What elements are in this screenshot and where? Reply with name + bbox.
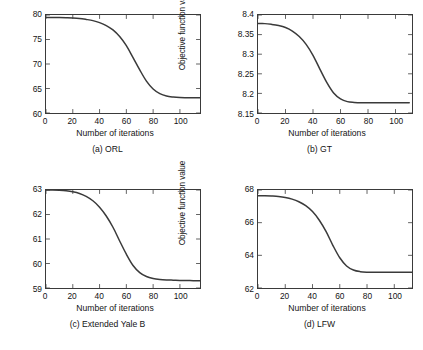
x-tick-b: 40 <box>298 116 328 126</box>
y-tick-c: 62 <box>2 210 42 219</box>
x-tick-a: 80 <box>139 116 169 126</box>
x-tick-c: 100 <box>166 291 196 301</box>
x-tick-c: 20 <box>57 291 87 301</box>
x-tick-d: 80 <box>352 291 382 301</box>
x-tick-b: 60 <box>326 116 356 126</box>
x-axis-label-a: Number of iterations <box>20 128 210 138</box>
objective-curve-d <box>258 196 412 273</box>
x-axis-label-c: Number of iterations <box>20 303 210 313</box>
y-tick-labels-d: 62646668 <box>212 189 254 289</box>
x-tick-a: 20 <box>57 116 87 126</box>
y-tick-labels-a: 6065707580 <box>0 14 42 114</box>
y-tick-b: 8.2 <box>214 90 254 99</box>
x-tick-labels-c: 020406080100 <box>45 291 201 303</box>
x-tick-d: 100 <box>380 291 410 301</box>
y-tick-c: 63 <box>2 185 42 194</box>
y-tick-b: 8.35 <box>214 30 254 39</box>
x-axis-label-b: Number of iterations <box>232 128 422 138</box>
caption-b: (b) GT <box>222 144 417 154</box>
y-tick-a: 80 <box>2 10 42 19</box>
caption-c: (c) Extended Yale B <box>10 319 205 329</box>
y-tick-a: 75 <box>2 35 42 44</box>
x-tick-b: 100 <box>381 116 411 126</box>
y-tick-labels-b: 8.158.28.258.38.358.4 <box>212 14 254 114</box>
x-tick-labels-d: 020406080100 <box>257 291 413 303</box>
y-tick-b: 8.25 <box>214 70 254 79</box>
figure-canvas: Objective function value 6065707580 0204… <box>0 0 423 350</box>
x-tick-c: 0 <box>30 291 60 301</box>
y-tick-c: 60 <box>2 260 42 269</box>
x-tick-a: 0 <box>30 116 60 126</box>
x-tick-d: 40 <box>297 291 327 301</box>
curve-svg-d <box>258 190 412 288</box>
y-tick-d: 64 <box>214 251 254 260</box>
y-tick-d: 68 <box>214 185 254 194</box>
x-tick-d: 20 <box>270 291 300 301</box>
x-axis-label-d: Number of iterations <box>232 303 422 313</box>
x-tick-a: 60 <box>111 116 141 126</box>
plot-area-d <box>257 189 413 289</box>
x-tick-b: 0 <box>242 116 272 126</box>
subplot-b: Objective function value 8.158.28.258.38… <box>212 0 423 175</box>
caption-d: (d) LFW <box>222 319 417 329</box>
y-tick-a: 65 <box>2 85 42 94</box>
x-tick-b: 80 <box>353 116 383 126</box>
x-tick-c: 80 <box>139 291 169 301</box>
subplot-d: Objective function value 62646668 020406… <box>212 175 423 350</box>
x-tick-a: 100 <box>166 116 196 126</box>
x-tick-labels-a: 020406080100 <box>45 116 201 128</box>
y-tick-b: 8.3 <box>214 50 254 59</box>
y-axis-label-b: Objective function value <box>176 0 190 78</box>
curve-svg-b <box>258 15 412 113</box>
x-tick-d: 60 <box>325 291 355 301</box>
x-tick-labels-b: 020406080100 <box>257 116 413 128</box>
x-tick-a: 40 <box>84 116 114 126</box>
x-tick-b: 20 <box>270 116 300 126</box>
y-tick-c: 61 <box>2 235 42 244</box>
x-tick-d: 0 <box>242 291 272 301</box>
plot-area-b <box>257 14 413 114</box>
y-tick-b: 8.4 <box>214 10 254 19</box>
y-tick-a: 70 <box>2 60 42 69</box>
y-axis-label-d: Objective function value <box>176 153 190 253</box>
objective-curve-b <box>258 24 409 103</box>
y-tick-d: 66 <box>214 218 254 227</box>
y-tick-labels-c: 5960616263 <box>0 189 42 289</box>
x-tick-c: 40 <box>84 291 114 301</box>
x-tick-c: 60 <box>111 291 141 301</box>
